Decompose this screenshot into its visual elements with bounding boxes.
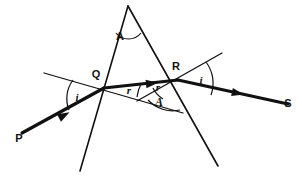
label-angle-refraction-r-right: r	[156, 81, 161, 93]
incident-ray-pq	[22, 88, 104, 133]
label-point-q: Q	[92, 68, 101, 80]
label-point-s: S	[284, 97, 291, 109]
angle-arc-inner-a	[148, 100, 180, 111]
label-point-p: P	[15, 132, 22, 144]
label-point-r: R	[172, 60, 180, 72]
label-angle-refraction-r-left: r	[127, 84, 132, 96]
optics-figure-root: A Q R P S i r r A i	[0, 0, 302, 176]
label-apex-a: A	[116, 30, 124, 42]
angle-arc-emergence-i	[206, 62, 213, 95]
prism-refraction-diagram: A Q R P S i r r A i	[0, 0, 302, 176]
label-angle-inner-a: A	[154, 95, 163, 109]
